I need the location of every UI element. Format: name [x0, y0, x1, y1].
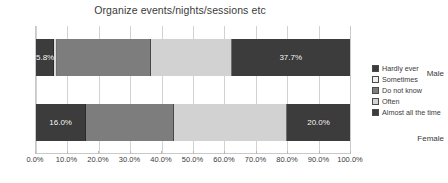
x-tick-mark — [350, 151, 351, 154]
legend-item[interactable]: Hardly ever — [372, 64, 448, 73]
bar-segment — [86, 104, 173, 141]
x-tick-label: 80.0% — [276, 155, 297, 164]
bar-value-label: 20.0% — [287, 118, 350, 127]
legend-swatch-icon — [372, 109, 379, 116]
x-tick-mark — [193, 151, 194, 154]
x-tick-label: 20.0% — [87, 155, 108, 164]
x-axis-ticks: 0.0%10.0%20.0%30.0%40.0%50.0%60.0%70.0%8… — [35, 155, 350, 171]
legend-label: Sometimes — [382, 75, 418, 84]
x-tick-mark — [35, 151, 36, 154]
legend-swatch-icon — [372, 76, 379, 83]
x-tick-mark — [224, 151, 225, 154]
x-tick-mark — [256, 151, 257, 154]
legend-label: Almost all the time — [382, 108, 441, 117]
legend-item[interactable]: Often — [372, 97, 448, 106]
x-tick-label: 50.0% — [182, 155, 203, 164]
legend-label: Hardly ever — [382, 64, 419, 73]
gridline — [350, 26, 351, 153]
x-tick-label: 60.0% — [213, 155, 234, 164]
x-tick-label: 100.0% — [337, 155, 362, 164]
bar-segment: 16.0% — [36, 104, 86, 141]
legend-item[interactable]: Sometimes — [372, 75, 448, 84]
bar-segment — [57, 39, 150, 76]
bar-segment — [151, 39, 232, 76]
x-tick-label: 0.0% — [26, 155, 43, 164]
legend-item[interactable]: Do not know — [372, 86, 448, 95]
bar-row-male: 5.8%37.7% — [36, 39, 350, 76]
legend-item[interactable]: Almost all the time — [372, 108, 448, 117]
x-tick-mark — [67, 151, 68, 154]
stacked-bar: 16.0%20.0% — [36, 104, 350, 141]
bar-segment: 5.8% — [36, 39, 54, 76]
chart-legend: Hardly everSometimesDo not knowOftenAlmo… — [372, 64, 448, 119]
legend-swatch-icon — [372, 87, 379, 94]
x-tick-mark — [319, 151, 320, 154]
bar-segment — [174, 104, 288, 141]
bar-row-female: 16.0%20.0% — [36, 104, 350, 141]
legend-label: Do not know — [382, 86, 422, 95]
legend-swatch-icon — [372, 65, 379, 72]
x-tick-mark — [161, 151, 162, 154]
x-tick-label: 70.0% — [245, 155, 266, 164]
legend-label: Often — [382, 97, 400, 106]
x-tick-mark — [130, 151, 131, 154]
legend-swatch-icon — [372, 98, 379, 105]
chart-container: Organize events/nights/sessions etc 5.8%… — [0, 0, 448, 183]
x-tick-label: 90.0% — [308, 155, 329, 164]
bar-segment: 20.0% — [287, 104, 350, 141]
bar-value-label: 16.0% — [36, 118, 85, 127]
x-tick-mark — [287, 151, 288, 154]
x-tick-label: 40.0% — [150, 155, 171, 164]
x-tick-label: 30.0% — [119, 155, 140, 164]
x-tick-mark — [98, 151, 99, 154]
chart-title: Organize events/nights/sessions etc — [0, 4, 360, 16]
y-axis-label-female: Female — [417, 134, 444, 143]
plot-area: 5.8%37.7% 16.0%20.0% — [35, 26, 350, 154]
x-tick-label: 10.0% — [56, 155, 77, 164]
bar-value-label: 37.7% — [232, 53, 350, 62]
bar-segment: 37.7% — [232, 39, 350, 76]
bar-value-label: 5.8% — [36, 53, 53, 62]
stacked-bar: 5.8%37.7% — [36, 39, 350, 76]
